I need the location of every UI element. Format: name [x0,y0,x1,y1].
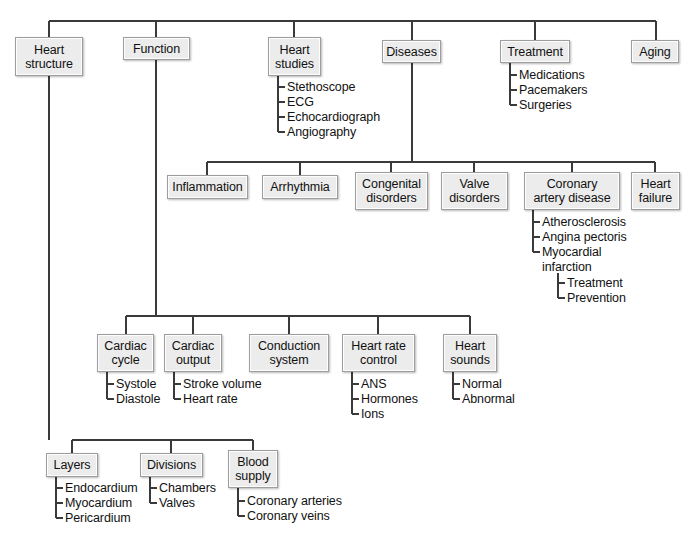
node-heart_rate_control[interactable]: Heart rate control [342,334,415,372]
node-heart_failure[interactable]: Heart failure [631,172,680,210]
node-heart_sounds[interactable]: Heart sounds [443,334,497,372]
leaf-cardiac_output_leaves-0[interactable]: Stroke volume [183,377,262,392]
leaf-layers_leaves-2[interactable]: Pericardium [65,511,131,526]
leaf-blood_supply_leaves-1[interactable]: Coronary veins [247,509,330,524]
leaf-treatment_leaves-0[interactable]: Medications [519,68,585,83]
leaf-heart_studies_leaves-0[interactable]: Stethoscope [287,80,355,95]
leaf-heart_sounds_leaves-0[interactable]: Normal [462,377,502,392]
node-treatment[interactable]: Treatment [500,40,570,63]
leaf-divisions_leaves-0[interactable]: Chambers [159,481,216,496]
node-blood_supply[interactable]: Blood supply [228,450,278,488]
node-coronary_artery_disease[interactable]: Coronary artery disease [524,172,620,210]
node-cardiac_cycle[interactable]: Cardiac cycle [97,334,154,372]
leaf-cardiac_output_leaves-1[interactable]: Heart rate [183,392,238,407]
leaf-heart_studies_leaves-1[interactable]: ECG [287,95,314,110]
leaf-cardiac_cycle_leaves-1[interactable]: Diastole [116,392,160,407]
leaf-heart_studies_leaves-2[interactable]: Echocardiograph [287,110,380,125]
leaf-heart_sounds_leaves-1[interactable]: Abnormal [462,392,515,407]
node-layers[interactable]: Layers [46,453,98,477]
leaf-heart_rate_control_leaves-0[interactable]: ANS [361,377,386,392]
leaf-myocardial_infarction_leaves-0[interactable]: Treatment [567,276,623,291]
node-function[interactable]: Function [123,37,190,60]
node-heart_studies[interactable]: Heart studies [268,37,321,76]
leaf-cardiac_cycle_leaves-0[interactable]: Systole [116,377,156,392]
node-inflammation[interactable]: Inflammation [167,175,248,199]
node-congenital_disorders[interactable]: Congenital disorders [355,172,428,210]
leaf-coronary_artery_disease_leaves-2[interactable]: Myocardial infarction [542,245,601,275]
leaf-myocardial_infarction_leaves-1[interactable]: Prevention [567,291,626,306]
leaf-treatment_leaves-1[interactable]: Pacemakers [519,83,587,98]
node-aging[interactable]: Aging [631,40,679,63]
leaf-treatment_leaves-2[interactable]: Surgeries [519,98,572,113]
leaf-coronary_artery_disease_leaves-0[interactable]: Atherosclerosis [542,215,626,230]
leaf-heart_rate_control_leaves-2[interactable]: Ions [361,407,384,422]
concept-map-diagram: Heart structureFunctionHeart studiesDise… [0,0,694,545]
leaf-coronary_artery_disease_leaves-1[interactable]: Angina pectoris [542,230,627,245]
node-heart_structure[interactable]: Heart structure [15,37,83,76]
leaf-layers_leaves-1[interactable]: Myocardium [65,496,132,511]
node-valve_disorders[interactable]: Valve disorders [441,172,508,210]
node-cardiac_output[interactable]: Cardiac output [164,334,222,372]
leaf-heart_rate_control_leaves-1[interactable]: Hormones [361,392,418,407]
node-diseases[interactable]: Diseases [382,40,441,63]
leaf-heart_studies_leaves-3[interactable]: Angiography [287,125,356,140]
node-conduction_system[interactable]: Conduction system [249,334,329,372]
node-arrhythmia[interactable]: Arrhythmia [262,175,338,199]
leaf-blood_supply_leaves-0[interactable]: Coronary arteries [247,494,342,509]
node-divisions[interactable]: Divisions [140,453,203,477]
leaf-layers_leaves-0[interactable]: Endocardium [65,481,138,496]
leaf-divisions_leaves-1[interactable]: Valves [159,496,195,511]
